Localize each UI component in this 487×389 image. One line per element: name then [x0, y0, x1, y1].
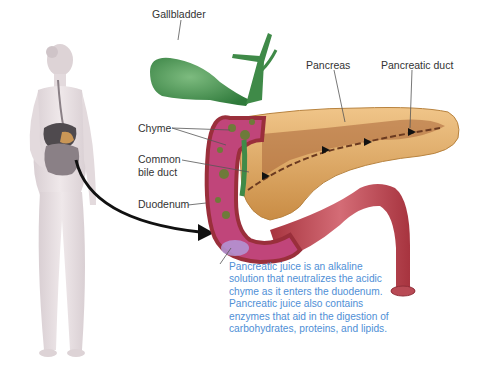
human-body-figure	[30, 44, 96, 357]
caption-line: solution that neutralizes the acidic	[229, 273, 449, 285]
label-duodenum: Duodenum	[138, 198, 189, 210]
label-common-bile-duct-line2: bile duct	[138, 166, 177, 178]
caption-line: carbohydrates, proteins, and lipids.	[229, 323, 449, 335]
gallbladder-illustration	[150, 33, 276, 106]
label-common-bile-duct-line1: Common	[138, 153, 181, 165]
label-chyme: Chyme	[138, 122, 171, 134]
caption-line: chyme as it enters the duodenum.	[229, 286, 449, 298]
caption-line: Pancreatic juice also contains	[229, 298, 449, 310]
caption-line: Pancreatic juice is an alkaline	[229, 261, 449, 273]
label-gallbladder: Gallbladder	[152, 8, 206, 20]
caption-line: enzymes that aid in the digestion of	[229, 311, 449, 323]
caption-pancreatic-juice: Pancreatic juice is an alkaline solution…	[229, 261, 449, 335]
label-pancreatic-duct: Pancreatic duct	[381, 59, 453, 71]
label-pancreas: Pancreas	[306, 59, 350, 71]
